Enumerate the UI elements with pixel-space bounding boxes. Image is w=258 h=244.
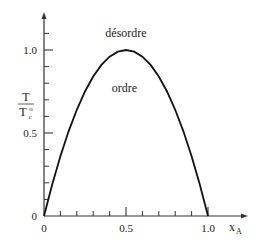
y-tick-label: 1.0	[23, 44, 37, 56]
y-label-denominator: T	[19, 105, 27, 119]
y-tick-label: 0.5	[23, 127, 37, 139]
x-tick-label: 1.0	[201, 222, 215, 234]
order-disorder-curve	[44, 50, 208, 216]
y-axis-label: T T c o	[18, 90, 34, 121]
y-label-numerator: T	[22, 90, 30, 104]
x-axis-label: x A	[229, 220, 242, 236]
x-tick-label: 0	[41, 222, 47, 234]
y-tick-label: 0	[32, 210, 38, 222]
annotation-ordre: ordre	[112, 81, 137, 95]
y-axis-arrow	[42, 12, 47, 19]
x-label-sub: A	[236, 227, 242, 236]
x-label: x	[229, 220, 235, 234]
y-label-denominator-sup: o	[29, 105, 33, 113]
x-axis-arrow	[241, 214, 248, 219]
x-tick-label: 0.5	[119, 222, 133, 234]
annotation-desordre: désordre	[105, 26, 146, 40]
y-label-denominator-sub: c	[28, 113, 31, 121]
phase-diagram-chart: 00.51.000.51.0 désordre ordre T T c o x …	[0, 0, 258, 244]
